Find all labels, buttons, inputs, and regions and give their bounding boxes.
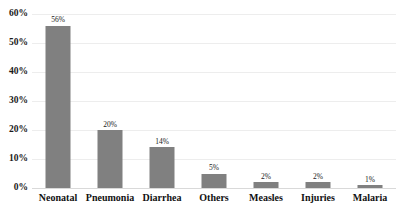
bar[interactable] xyxy=(150,147,175,188)
x-axis-tick-label: Measles xyxy=(249,192,283,203)
bar-value-label: 5% xyxy=(209,164,219,172)
y-axis-tick-label: 50% xyxy=(9,38,28,48)
y-axis-tick-label: 40% xyxy=(9,67,28,77)
y-axis-tick-label: 60% xyxy=(9,9,28,19)
x-axis-tick-label: Pneumonia xyxy=(86,192,134,203)
bar[interactable] xyxy=(202,174,227,189)
bar-value-label: 1% xyxy=(365,176,375,184)
y-axis: 0%10%20%30%40%50%60% xyxy=(0,0,32,222)
x-axis: NeonatalPneumoniaDiarrheaOthersMeaslesIn… xyxy=(32,190,396,212)
x-axis-tick-label: Neonatal xyxy=(39,192,77,203)
x-axis-tick-label: Diarrhea xyxy=(143,192,182,203)
bar[interactable] xyxy=(306,182,331,188)
y-axis-tick-label: 20% xyxy=(9,125,28,135)
x-axis-tick-label: Malaria xyxy=(353,192,387,203)
bar-group[interactable]: 5% xyxy=(188,14,240,188)
bar-group[interactable]: 2% xyxy=(240,14,292,188)
bar[interactable] xyxy=(98,130,123,188)
bar-value-label: 2% xyxy=(313,173,323,181)
gridline xyxy=(32,188,396,189)
bar[interactable] xyxy=(358,185,383,188)
bar-value-label: 2% xyxy=(261,173,271,181)
bar-group[interactable]: 20% xyxy=(84,14,136,188)
bar-value-label: 56% xyxy=(51,16,65,24)
bar-group[interactable]: 14% xyxy=(136,14,188,188)
bar-chart: 0%10%20%30%40%50%60% 56%20%14%5%2%2%1% N… xyxy=(0,0,400,222)
y-axis-tick-label: 0% xyxy=(14,183,28,193)
y-axis-tick-label: 30% xyxy=(9,96,28,106)
bar-value-label: 14% xyxy=(155,138,169,146)
bars-layer: 56%20%14%5%2%2%1% xyxy=(32,14,396,188)
bar-group[interactable]: 1% xyxy=(344,14,396,188)
bar[interactable] xyxy=(254,182,279,188)
bar-value-label: 20% xyxy=(103,121,117,129)
bar-group[interactable]: 2% xyxy=(292,14,344,188)
bar[interactable] xyxy=(46,26,71,188)
bar-group[interactable]: 56% xyxy=(32,14,84,188)
y-axis-tick-label: 10% xyxy=(9,154,28,164)
x-axis-tick-label: Others xyxy=(199,192,228,203)
x-axis-tick-label: Injuries xyxy=(301,192,335,203)
